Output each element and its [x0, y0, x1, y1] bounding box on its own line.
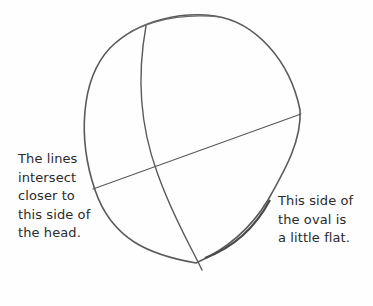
vertical-guide-line: [141, 26, 202, 270]
head-oval-outline: [84, 15, 300, 263]
annotation-left: The lines intersect closer to this side …: [18, 150, 108, 243]
drawing-canvas: The lines intersect closer to this side …: [0, 0, 373, 306]
horizontal-guide-line: [93, 114, 301, 189]
annotation-right: This side of the oval is a little flat.: [278, 192, 373, 248]
